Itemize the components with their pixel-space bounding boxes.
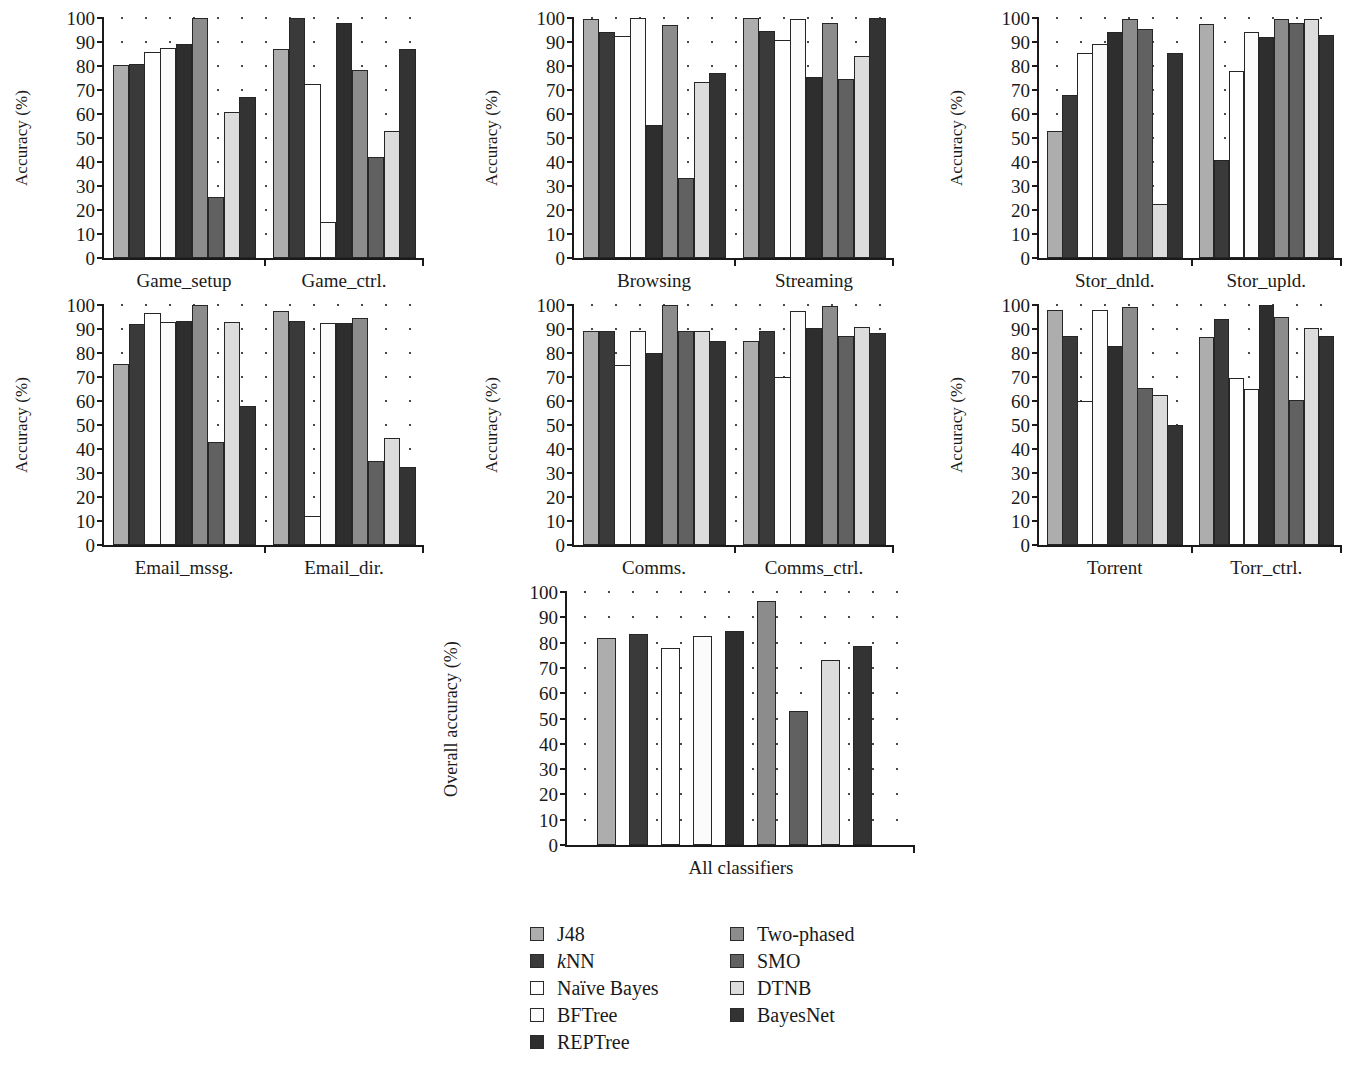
- bar-na-ve-bayes: [774, 377, 790, 545]
- legend-label: Naïve Bayes: [557, 978, 659, 998]
- bar-dtnb: [1152, 204, 1167, 258]
- gridline: [574, 304, 894, 306]
- y-tick-label: 60: [1011, 105, 1039, 124]
- y-tick-label: 20: [1011, 201, 1039, 220]
- bar-reptree: [806, 328, 822, 545]
- plot-area: 1009080706050403020100All classifiers: [565, 592, 915, 847]
- y-tick-label: 10: [1011, 512, 1039, 531]
- legend-column-1: J48kNNNaïve BayesBFTreeREPTree: [530, 920, 659, 1055]
- bar-bayesnet: [709, 73, 725, 258]
- bar-bayesnet: [1319, 336, 1334, 545]
- legend-label: Two-phased: [757, 924, 854, 944]
- y-tick-label: 50: [1011, 129, 1039, 148]
- y-tick-label: 40: [76, 153, 104, 172]
- bar-bftree: [630, 18, 646, 258]
- gridline: [567, 616, 915, 618]
- bar-na-ve-bayes: [614, 365, 630, 545]
- y-axis-label: Accuracy (%): [482, 325, 502, 525]
- bar-dtnb: [384, 438, 400, 545]
- bar-j48: [273, 311, 289, 545]
- x-tick-mark: [1340, 258, 1342, 266]
- x-axis-label: All classifiers: [688, 857, 793, 879]
- bar-two-phased: [822, 306, 838, 545]
- y-tick-label: 40: [76, 440, 104, 459]
- y-tick-label: 10: [76, 512, 104, 531]
- bar-bayesnet: [1319, 35, 1334, 258]
- bar-na-ve-bayes: [614, 36, 630, 258]
- y-tick-label: 100: [1002, 9, 1040, 28]
- bar-bayesnet: [239, 406, 255, 545]
- bar-smo: [1289, 23, 1304, 258]
- bar-reptree: [1259, 37, 1274, 258]
- bar-smo: [208, 197, 224, 258]
- chart-panel-email: Accuracy (%)1009080706050403020100Email_…: [20, 305, 420, 545]
- y-axis-label: Accuracy (%): [482, 38, 502, 238]
- x-axis-label: Streaming: [775, 270, 853, 292]
- bar-reptree: [336, 323, 352, 545]
- bar-j48: [1199, 24, 1214, 258]
- bar-knn: [759, 31, 775, 258]
- gridline: [574, 328, 894, 330]
- bar-reptree: [646, 353, 662, 545]
- legend-swatch-icon: [530, 1008, 544, 1022]
- legend-item-j48[interactable]: J48: [530, 920, 659, 947]
- y-tick-label: 20: [546, 488, 574, 507]
- y-tick-label: 50: [546, 129, 574, 148]
- x-tick-mark: [892, 545, 894, 553]
- gridline: [1039, 376, 1342, 378]
- bar-j48: [583, 331, 599, 545]
- x-tick-mark: [1191, 545, 1193, 553]
- y-tick-label: 60: [539, 684, 567, 703]
- x-tick-mark: [264, 545, 266, 553]
- y-tick-label: 50: [546, 416, 574, 435]
- bar-smo: [838, 336, 854, 545]
- x-tick-mark: [422, 258, 424, 266]
- legend-item-bayesnet[interactable]: BayesNet: [730, 1001, 854, 1028]
- y-tick-label: 0: [1021, 536, 1040, 555]
- legend-label: BFTree: [557, 1005, 617, 1025]
- x-tick-mark: [892, 258, 894, 266]
- bar-knn: [759, 331, 775, 545]
- legend-label: REPTree: [557, 1032, 630, 1052]
- bar-na-ve-bayes: [1077, 401, 1092, 545]
- x-axis-label: Torr_ctrl.: [1230, 557, 1302, 579]
- y-tick-label: 20: [546, 201, 574, 220]
- bar-bftree: [1092, 44, 1107, 258]
- bar-j48: [113, 364, 129, 545]
- legend-item-bftree[interactable]: BFTree: [530, 1001, 659, 1028]
- bar-dtnb: [384, 131, 400, 258]
- legend-item-knn[interactable]: kNN: [530, 947, 659, 974]
- legend-item-dtnb[interactable]: DTNB: [730, 974, 854, 1001]
- bar-reptree: [176, 44, 192, 258]
- legend-label: BayesNet: [757, 1005, 835, 1025]
- bar-bftree: [790, 311, 806, 545]
- bar-bftree: [1244, 389, 1259, 545]
- bar-smo: [368, 461, 384, 545]
- y-tick-label: 20: [76, 488, 104, 507]
- bar-j48: [597, 638, 616, 845]
- bar-smo: [789, 711, 808, 845]
- legend-item-na-ve-bayes[interactable]: Naïve Bayes: [530, 974, 659, 1001]
- bar-dtnb: [821, 660, 840, 845]
- legend-item-smo[interactable]: SMO: [730, 947, 854, 974]
- y-tick-label: 100: [67, 296, 105, 315]
- legend-item-two-phased[interactable]: Two-phased: [730, 920, 854, 947]
- bar-bayesnet: [853, 646, 872, 845]
- y-tick-label: 80: [1011, 344, 1039, 363]
- y-tick-label: 90: [1011, 320, 1039, 339]
- x-axis-label: Torrent: [1087, 557, 1143, 579]
- gridline: [567, 591, 915, 593]
- bar-na-ve-bayes: [304, 516, 320, 545]
- y-tick-label: 20: [76, 201, 104, 220]
- bar-j48: [1047, 131, 1062, 258]
- chart-panel-comms: Accuracy (%)1009080706050403020100Comms.…: [490, 305, 890, 545]
- bar-j48: [743, 341, 759, 545]
- y-tick-label: 0: [1021, 249, 1040, 268]
- legend-label: DTNB: [757, 978, 811, 998]
- y-axis-label: Accuracy (%): [947, 38, 967, 238]
- y-tick-label: 40: [546, 153, 574, 172]
- bar-j48: [273, 49, 289, 258]
- legend-item-reptree[interactable]: REPTree: [530, 1028, 659, 1055]
- gridline: [1039, 17, 1342, 19]
- y-tick-label: 30: [76, 464, 104, 483]
